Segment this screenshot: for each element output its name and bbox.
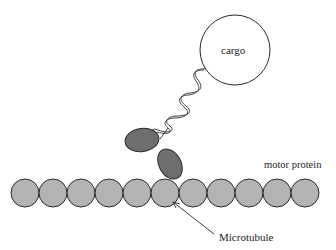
coiled-coil-stalk — [152, 69, 206, 139]
tubulin-subunit — [39, 179, 67, 207]
cargo-label: cargo — [221, 45, 245, 56]
motor-protein-label: motor protein — [264, 160, 321, 171]
tubulin-subunit — [179, 179, 207, 207]
motor-head-rear — [124, 126, 161, 154]
motor-protein-diagram — [0, 0, 336, 250]
tubulin-subunit — [263, 179, 291, 207]
tubulin-subunit — [123, 179, 151, 207]
tubulin-subunit — [207, 179, 235, 207]
tubulin-subunit — [235, 179, 263, 207]
microtubule — [11, 179, 319, 207]
tubulin-subunit — [67, 179, 95, 207]
motor-head-bound — [153, 145, 187, 184]
tubulin-subunit — [95, 179, 123, 207]
microtubule-label: Microtubule — [219, 232, 273, 243]
tubulin-subunit — [291, 179, 319, 207]
tubulin-subunit — [11, 179, 39, 207]
